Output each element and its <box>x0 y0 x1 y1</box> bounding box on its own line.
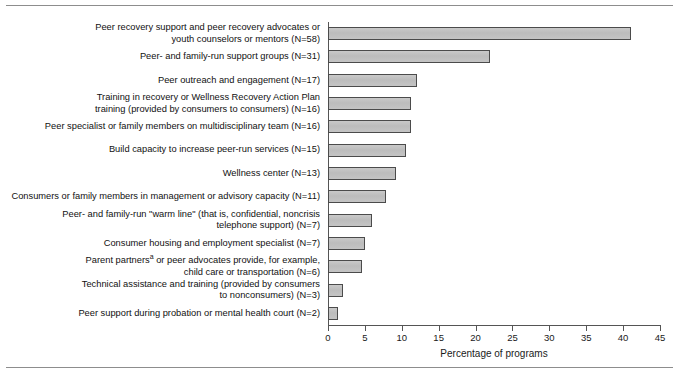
bar-series <box>328 22 660 325</box>
bar <box>328 307 338 320</box>
x-tick-mark <box>439 325 440 331</box>
x-tick-mark <box>623 325 624 331</box>
bar <box>328 74 417 87</box>
x-tick-mark <box>512 325 513 331</box>
category-label: Build capacity to increase peer-run serv… <box>0 144 320 156</box>
category-axis-labels: Peer recovery support and peer recovery … <box>0 22 324 325</box>
x-tick-label: 0 <box>325 332 330 343</box>
bar <box>328 27 631 40</box>
x-tick-mark <box>586 325 587 331</box>
x-tick-label: 10 <box>396 332 407 343</box>
x-axis-line <box>328 325 660 326</box>
x-tick-label: 15 <box>433 332 444 343</box>
bar-row <box>328 69 660 92</box>
category-label: Peer recovery support and peer recovery … <box>0 22 320 45</box>
bar <box>328 167 396 180</box>
category-label: Peer support during probation or mental … <box>0 308 320 320</box>
x-tick-mark <box>476 325 477 331</box>
bar <box>328 50 490 63</box>
bar-row <box>328 115 660 138</box>
x-tick-mark <box>365 325 366 331</box>
plot-area: 051015202530354045 Percentage of program… <box>328 22 660 325</box>
bar <box>328 190 386 203</box>
x-tick-label: 20 <box>470 332 481 343</box>
category-label: Consumers or family members in managemen… <box>0 191 320 203</box>
bar-row <box>328 208 660 231</box>
x-axis-title: Percentage of programs <box>328 348 660 359</box>
bar-row <box>328 22 660 45</box>
bar-row <box>328 278 660 301</box>
x-tick-label: 45 <box>655 332 666 343</box>
x-tick-label: 5 <box>362 332 367 343</box>
bar <box>328 260 362 273</box>
bar <box>328 144 406 157</box>
category-label: Peer outreach and engagement (N=17) <box>0 75 320 87</box>
x-tick-label: 35 <box>581 332 592 343</box>
bar-row <box>328 92 660 115</box>
figure-top-rule <box>6 5 673 6</box>
bar-row <box>328 232 660 255</box>
x-tick-mark <box>402 325 403 331</box>
bar <box>328 284 343 297</box>
category-label: Peer- and family-run support groups (N=3… <box>0 51 320 63</box>
bar <box>328 237 365 250</box>
bar-row <box>328 302 660 325</box>
bar-row <box>328 185 660 208</box>
bar <box>328 214 372 227</box>
bar <box>328 120 411 133</box>
category-label: Technical assistance and training (provi… <box>0 279 320 302</box>
x-tick-mark <box>328 325 329 331</box>
category-label: Peer specialist or family members on mul… <box>0 121 320 133</box>
category-label: Wellness center (N=13) <box>0 168 320 180</box>
bar-row <box>328 255 660 278</box>
figure-bottom-rule <box>6 367 673 368</box>
x-tick-mark <box>660 325 661 331</box>
x-tick-label: 25 <box>507 332 518 343</box>
x-tick-mark <box>549 325 550 331</box>
x-tick-label: 40 <box>618 332 629 343</box>
category-label: Peer- and family-run "warm line" (that i… <box>0 209 320 232</box>
bar-row <box>328 45 660 68</box>
bar-row <box>328 139 660 162</box>
bar-row <box>328 162 660 185</box>
bar <box>328 97 411 110</box>
x-tick-label: 30 <box>544 332 555 343</box>
figure-bar-chart-percentage-of-programs: Peer recovery support and peer recovery … <box>0 0 679 374</box>
category-label: Parent partnersa or peer advocates provi… <box>0 255 320 278</box>
category-label: Training in recovery or Wellness Recover… <box>0 92 320 115</box>
category-label: Consumer housing and employment speciali… <box>0 238 320 250</box>
